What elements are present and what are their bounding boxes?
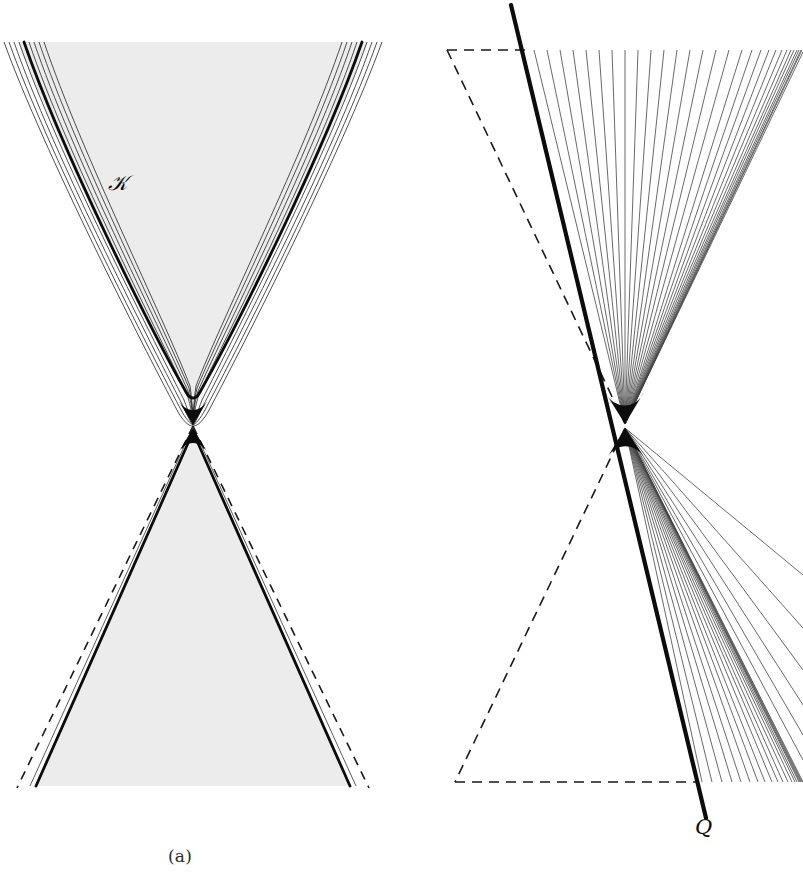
panel-b-canvas: 𝑄 bbox=[400, 0, 803, 886]
panel-a-canvas: 𝒦 bbox=[0, 0, 400, 886]
panel-a-caption: (a) bbox=[168, 846, 192, 866]
ray-fan-lower bbox=[625, 428, 803, 782]
shaded-lower-cone bbox=[36, 437, 350, 786]
panel-b: 𝑄 (b) bbox=[400, 0, 803, 886]
ray-fan-upper bbox=[534, 50, 803, 424]
panel-a: 𝒦 (a) bbox=[0, 0, 400, 886]
null-line-label: 𝑄 bbox=[695, 815, 712, 839]
dashed-triangle-lower-hypotenuse bbox=[455, 428, 625, 782]
shaded-upper-cone bbox=[18, 42, 368, 400]
figure-root: 𝒦 (a) bbox=[0, 0, 803, 886]
